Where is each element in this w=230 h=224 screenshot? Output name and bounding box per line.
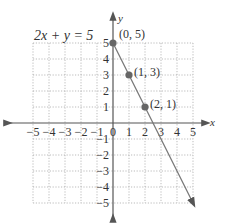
x-tick-label: −4 bbox=[43, 125, 56, 139]
data-point bbox=[141, 103, 148, 110]
x-tick-label: −3 bbox=[59, 125, 72, 139]
data-point bbox=[109, 39, 116, 46]
x-tick-label: −2 bbox=[75, 125, 88, 139]
y-tick-label: 1 bbox=[103, 100, 109, 114]
point-label-0-5: (0, 5) bbox=[119, 27, 145, 41]
y-tick-label: 4 bbox=[103, 52, 109, 66]
y-tick-label: 2 bbox=[103, 84, 109, 98]
coordinate-graph: −5−4−3−2−1012345−5−4−3−2−112345 2x + y =… bbox=[0, 0, 230, 224]
y-tick-label: −2 bbox=[96, 148, 109, 162]
x-tick-label: 2 bbox=[142, 125, 148, 139]
y-tick-label: −5 bbox=[96, 196, 109, 210]
x-tick-label: 4 bbox=[174, 125, 180, 139]
y-axis-label: y bbox=[117, 12, 123, 24]
x-tick-label: 1 bbox=[126, 125, 132, 139]
plot-line bbox=[109, 39, 193, 203]
y-tick-label: 3 bbox=[103, 68, 109, 82]
x-tick-label: −5 bbox=[27, 125, 40, 139]
y-tick-label: −1 bbox=[96, 132, 109, 146]
data-point bbox=[125, 71, 132, 78]
x-tick-label: 0 bbox=[110, 125, 116, 139]
equation-label: 2x + y = 5 bbox=[34, 28, 93, 43]
y-tick-label: 5 bbox=[103, 36, 109, 50]
y-tick-label: −3 bbox=[96, 164, 109, 178]
point-label-1-3: (1, 3) bbox=[134, 65, 160, 79]
x-tick-label: 5 bbox=[190, 125, 196, 139]
y-tick-label: −4 bbox=[96, 180, 109, 194]
x-tick-label: 3 bbox=[158, 125, 164, 139]
x-axis-label: x bbox=[209, 116, 215, 128]
point-label-2-1: (2, 1) bbox=[150, 97, 176, 111]
